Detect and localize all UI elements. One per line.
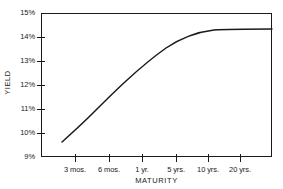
yield-curve-chart: 15% 14% 13% 12% 11% 10% 9% YIELD (0, 0, 283, 189)
yield-curve-line (62, 29, 272, 142)
yield-curve-svg (0, 0, 283, 189)
